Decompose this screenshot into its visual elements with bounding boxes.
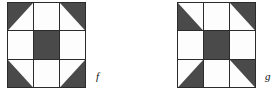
block-cell-bottom-center-cell (204, 60, 229, 87)
block-cell-bottom-center-cell (34, 60, 59, 87)
block-cell-middle-left-cell (178, 31, 203, 58)
half-square-triangle-bottom-right (178, 60, 203, 87)
block-cell-top-right-cell (60, 3, 85, 30)
half-square-triangle-top-right (230, 3, 255, 30)
half-square-triangle-bottom-left (178, 3, 203, 30)
block-cell-bottom-left-cell (178, 60, 203, 87)
half-square-triangle-bottom-right (60, 60, 85, 87)
half-square-triangle-top-right (230, 60, 255, 87)
block-cell-bottom-right-cell (60, 60, 85, 87)
block-cell-middle-right-cell (230, 31, 255, 58)
block-cell-center-cell (204, 31, 229, 58)
block-cell-center-cell (34, 31, 59, 58)
half-square-triangle-top-left (8, 3, 33, 30)
block-cell-bottom-right-cell (230, 60, 255, 87)
block-cell-top-center-cell (34, 3, 59, 30)
block-grid (7, 2, 86, 88)
block-cell-top-center-cell (204, 3, 229, 30)
quilt-block-f (7, 2, 86, 88)
block-label-f: f (96, 71, 99, 82)
block-cell-top-left-cell (8, 3, 33, 30)
block-cell-top-right-cell (230, 3, 255, 30)
block-cell-middle-right-cell (60, 31, 85, 58)
block-grid (177, 2, 256, 88)
block-label-g: g (265, 71, 271, 82)
block-cell-middle-left-cell (8, 31, 33, 58)
quilt-block-figure: fg (0, 0, 277, 91)
block-cell-top-left-cell (178, 3, 203, 30)
half-square-triangle-top-right (60, 3, 85, 30)
block-cell-bottom-left-cell (8, 60, 33, 87)
quilt-block-g (177, 2, 256, 88)
half-square-triangle-bottom-left (8, 60, 33, 87)
